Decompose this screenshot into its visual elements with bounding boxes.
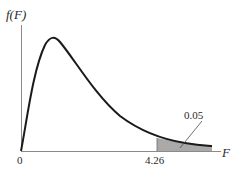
density-curve bbox=[21, 38, 212, 151]
x-axis-label: F bbox=[221, 145, 231, 160]
tail-area-label: 0.05 bbox=[184, 109, 204, 121]
y-axis-label: f(F) bbox=[6, 7, 26, 22]
critical-value-label: 4.26 bbox=[145, 154, 165, 166]
f-distribution-chart: f(F) F 0 4.26 0.05 bbox=[0, 0, 244, 175]
origin-tick-label: 0 bbox=[17, 154, 23, 166]
